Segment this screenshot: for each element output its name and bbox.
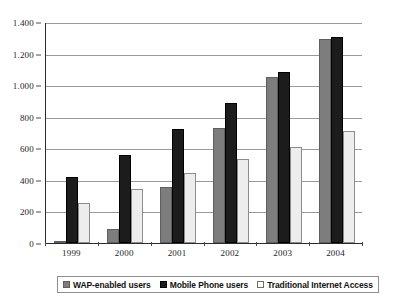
legend-entry-2: Mobile Phone users <box>160 280 249 290</box>
bar-2003-series-3 <box>290 147 302 243</box>
y-tick-mark <box>36 244 41 245</box>
y-tick-mark <box>36 212 41 213</box>
y-tick-mark <box>36 23 41 24</box>
bar-2004-series-3 <box>343 131 355 243</box>
bar-2000-series-1 <box>107 229 119 243</box>
y-tick-label: 200 <box>20 207 34 217</box>
bar-group <box>99 23 152 243</box>
bar-group <box>257 23 310 243</box>
bar-1999-series-2 <box>66 177 78 243</box>
y-tick-mark <box>36 86 41 87</box>
bar-2002-series-2 <box>225 103 237 243</box>
bar-group <box>46 23 99 243</box>
legend-entry-1: WAP-enabled users <box>63 280 151 290</box>
x-tick-mark <box>204 242 205 246</box>
y-tick-label: 1.400 <box>13 18 34 28</box>
x-tick-label-2002: 2002 <box>221 248 240 258</box>
legend-swatch-icon <box>257 281 264 288</box>
bar-group <box>152 23 205 243</box>
legend-label: Mobile Phone users <box>170 280 249 290</box>
x-axis: 199920002001200220032004 <box>45 246 362 262</box>
bar-1999-series-3 <box>78 203 90 243</box>
bar-2001-series-1 <box>160 187 172 243</box>
x-tick-label-2001: 2001 <box>168 248 187 258</box>
x-tick-mark <box>309 242 310 246</box>
bar-2003-series-2 <box>278 72 290 243</box>
x-tick-label-2004: 2004 <box>326 248 345 258</box>
x-tick-label-1999: 1999 <box>62 248 81 258</box>
legend-entry-3: Traditional Internet Access <box>257 280 373 290</box>
legend-swatch-icon <box>63 281 70 288</box>
bar-2000-series-3 <box>131 189 143 243</box>
y-axis: 02004006008001.0001.2001.400 <box>0 23 41 244</box>
x-tick-mark <box>151 242 152 246</box>
bar-2001-series-3 <box>184 173 196 243</box>
x-tick-mark <box>256 242 257 246</box>
bar-2001-series-2 <box>172 129 184 243</box>
y-tick-mark <box>36 54 41 55</box>
bar-2004-series-1 <box>319 39 331 243</box>
x-tick-label-2003: 2003 <box>273 248 292 258</box>
plot-area <box>45 23 362 244</box>
bar-2002-series-3 <box>237 159 249 243</box>
y-tick-label: 1.200 <box>13 50 34 60</box>
x-tick-mark <box>362 242 363 246</box>
bar-chart-figure: 02004006008001.0001.2001.400 19992000200… <box>0 0 397 307</box>
bar-2000-series-2 <box>119 155 131 243</box>
y-tick-mark <box>36 180 41 181</box>
bar-group <box>310 23 363 243</box>
legend-label: Traditional Internet Access <box>267 280 373 290</box>
bar-1999-series-1 <box>54 241 66 243</box>
x-tick-mark <box>45 242 46 246</box>
y-tick-label: 0 <box>29 239 34 249</box>
y-tick-label: 400 <box>20 176 34 186</box>
x-tick-label-2000: 2000 <box>115 248 134 258</box>
bar-2004-series-2 <box>331 37 343 243</box>
y-tick-label: 600 <box>20 144 34 154</box>
y-tick-mark <box>36 117 41 118</box>
y-tick-label: 800 <box>20 113 34 123</box>
y-tick-label: 1.000 <box>13 81 34 91</box>
bar-group <box>205 23 258 243</box>
legend-label: WAP-enabled users <box>73 280 151 290</box>
bar-2003-series-1 <box>266 77 278 243</box>
y-tick-mark <box>36 149 41 150</box>
chart-legend: WAP-enabled usersMobile Phone usersTradi… <box>57 276 379 293</box>
legend-swatch-icon <box>160 281 167 288</box>
bars-layer <box>46 23 362 243</box>
bar-2002-series-1 <box>213 128 225 243</box>
x-tick-mark <box>98 242 99 246</box>
